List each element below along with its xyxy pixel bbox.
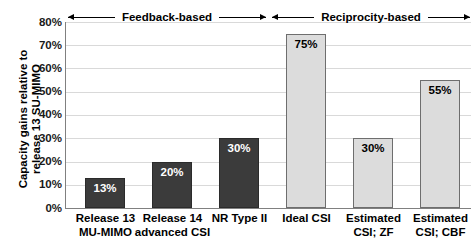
annotation-label: Reciprocity-based bbox=[318, 11, 424, 24]
gridline-50 bbox=[66, 92, 471, 93]
group-annotations: Feedback-based Reciprocity-based bbox=[0, 8, 474, 28]
bar-value-label: 13% bbox=[86, 182, 124, 195]
arrow-right-icon bbox=[428, 17, 470, 18]
x-label-line-2: advanced CSI bbox=[130, 225, 215, 239]
y-axis-tick-labels: 80% 70% 60% 50% 40% 30% 20% 10% 0% bbox=[0, 0, 62, 252]
bar-value-label: 30% bbox=[354, 142, 392, 155]
bar-value-label: 30% bbox=[220, 142, 258, 155]
arrow-left-icon bbox=[272, 17, 314, 18]
bar-release-13-mu-mimo[interactable]: 13% bbox=[85, 178, 125, 208]
x-label-line-1: Estimated bbox=[398, 211, 474, 225]
bar-release-14-advanced-csi[interactable]: 20% bbox=[152, 162, 192, 209]
x-label-estimated-csi-cbf: Estimated CSI; CBF bbox=[398, 211, 474, 239]
y-tick-0: 0% bbox=[4, 202, 62, 214]
bar-value-label: 55% bbox=[421, 84, 459, 97]
y-tick-70: 70% bbox=[4, 39, 62, 51]
bar-estimated-csi-zf[interactable]: 30% bbox=[353, 138, 393, 208]
capacity-gains-bar-chart: Capacity gains relative to release 13 SU… bbox=[0, 0, 474, 252]
gridline-60 bbox=[66, 68, 471, 69]
y-tick-10: 10% bbox=[4, 178, 62, 190]
arrow-right-icon bbox=[219, 17, 266, 18]
annotation-label: Feedback-based bbox=[119, 11, 215, 24]
annotation-feedback-based: Feedback-based bbox=[68, 8, 266, 26]
y-tick-60: 60% bbox=[4, 62, 62, 74]
plot-area: 13% 20% 30% 75% 30% 55% bbox=[66, 22, 471, 208]
gridline-30 bbox=[66, 138, 471, 139]
annotation-reciprocity-based: Reciprocity-based bbox=[272, 8, 470, 26]
gridline-40 bbox=[66, 115, 471, 116]
bar-value-label: 20% bbox=[153, 166, 191, 179]
bar-ideal-csi[interactable]: 75% bbox=[286, 34, 326, 208]
bar-estimated-csi-cbf[interactable]: 55% bbox=[420, 80, 460, 208]
x-axis-line bbox=[66, 208, 471, 209]
arrow-left-icon bbox=[68, 17, 115, 18]
gridline-20 bbox=[66, 162, 471, 163]
bar-value-label: 75% bbox=[287, 38, 325, 51]
bar-nr-type-ii[interactable]: 30% bbox=[219, 138, 259, 208]
y-tick-30: 30% bbox=[4, 132, 62, 144]
gridline-70 bbox=[66, 45, 471, 46]
gridline-10 bbox=[66, 185, 471, 186]
y-tick-20: 20% bbox=[4, 155, 62, 167]
x-label-line-2: CSI; CBF bbox=[398, 225, 474, 239]
x-axis-category-labels: Release 13 MU-MIMO Release 14 advanced C… bbox=[66, 211, 471, 251]
y-tick-50: 50% bbox=[4, 85, 62, 97]
y-tick-40: 40% bbox=[4, 108, 62, 120]
